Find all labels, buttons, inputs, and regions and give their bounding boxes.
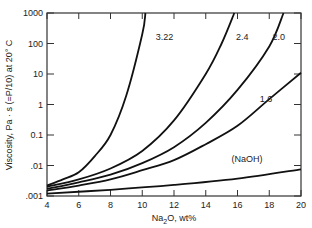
curve-label: 3.22: [156, 32, 174, 42]
x-tick-label: 4: [44, 200, 49, 210]
y-tick-label: 10: [33, 69, 43, 79]
x-tick-label: 16: [232, 200, 242, 210]
curve-label: 2.4: [236, 32, 249, 42]
x-tick-label: 6: [76, 200, 81, 210]
y-tick-label: 1: [38, 100, 43, 110]
y-axis-label: Viscosity, Pa · s (=P/10) at 20° C: [4, 39, 14, 170]
y-tick-label: 100: [28, 39, 43, 49]
x-tick-label: 14: [201, 200, 211, 210]
curve-label: 1.6: [260, 94, 273, 104]
curve-label: (NaOH): [232, 154, 263, 164]
y-tick-label: .01: [30, 161, 43, 171]
x-tick-label: 12: [169, 200, 179, 210]
curve-label: 2.0: [273, 32, 286, 42]
curve-3.22: [47, 13, 145, 186]
x-tick-label: 20: [296, 200, 306, 210]
x-tick-label: 18: [264, 200, 274, 210]
y-tick-label: .001: [25, 191, 43, 201]
x-axis-label: Na2O, wt%: [152, 213, 196, 225]
curve-1.6: [47, 73, 301, 191]
x-tick-label: 8: [108, 200, 113, 210]
y-tick-label: 0.1: [30, 130, 43, 140]
viscosity-chart: 468101214161820.001.010.11101001000 3.22…: [0, 0, 312, 228]
y-tick-label: 1000: [23, 8, 43, 18]
x-tick-label: 10: [137, 200, 147, 210]
